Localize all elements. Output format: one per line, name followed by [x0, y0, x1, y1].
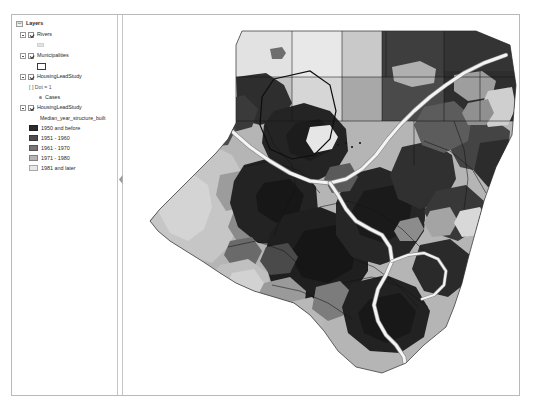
layer-visibility-checkbox[interactable]: [28, 105, 34, 111]
toc-layer-housingleadstudy-points[interactable]: HousingLeadStudy: [16, 71, 117, 82]
class-swatch-1: [29, 125, 38, 131]
layer-visibility-checkbox[interactable]: [28, 53, 34, 59]
choropleth-map: [124, 15, 519, 395]
class-swatch-3: [29, 145, 38, 151]
toc-layer-label: HousingLeadStudy: [37, 102, 82, 113]
toc-symbol-rivers: [16, 40, 117, 50]
map-canvas[interactable]: [124, 15, 519, 395]
toc-layer-label: Municipalities: [37, 50, 69, 61]
class-label: 1961 - 1970: [41, 143, 70, 153]
expander-icon[interactable]: [20, 74, 26, 80]
toc-layer-housingleadstudy-choropleth[interactable]: HousingLeadStudy: [16, 102, 117, 113]
toc-class-row[interactable]: 1961 - 1970: [16, 143, 117, 153]
expander-icon[interactable]: [20, 53, 26, 59]
class-label: 1950 and before: [41, 123, 80, 133]
toc-classification-field: Median_year_structure_built: [16, 113, 117, 123]
line-symbol-icon: [37, 43, 44, 47]
toc-class-row[interactable]: 1971 - 1980: [16, 153, 117, 163]
county-polygons: [124, 15, 519, 395]
expander-icon[interactable]: [20, 105, 26, 111]
data-frame-icon: [16, 21, 23, 27]
toc-symbol-cases: Cases: [16, 92, 117, 102]
toc-class-row[interactable]: 1951 - 1960: [16, 133, 117, 143]
layer-visibility-checkbox[interactable]: [28, 74, 34, 80]
panel-splitter[interactable]: [117, 15, 123, 395]
class-label: 1971 - 1980: [41, 153, 70, 163]
class-swatch-5: [29, 165, 38, 171]
toc-symbol-label: Cases: [45, 92, 60, 102]
point-symbol-icon: [39, 96, 42, 99]
document-frame: Layers Rivers Municipalities: [11, 14, 520, 396]
toc-definition-query: [ ] Dot = 1: [16, 82, 117, 92]
class-label: 1951 - 1960: [41, 133, 70, 143]
toc-class-row[interactable]: 1950 and before: [16, 123, 117, 133]
definition-query-label: [ ] Dot = 1: [29, 82, 52, 92]
class-label: 1981 and later: [41, 163, 75, 173]
class-swatch-2: [29, 135, 38, 141]
application-window: Layers Rivers Municipalities: [0, 0, 535, 412]
toc-root-label: Layers: [26, 18, 43, 29]
chevron-left-icon[interactable]: [119, 175, 123, 184]
expander-icon[interactable]: [20, 32, 26, 38]
toc-layer-rivers[interactable]: Rivers: [16, 29, 117, 40]
toc-symbol-municipalities: [16, 61, 117, 71]
toc-class-row[interactable]: 1981 and later: [16, 163, 117, 173]
toc-layer-label: HousingLeadStudy: [37, 71, 82, 82]
toc-layer-label: Rivers: [37, 29, 52, 40]
class-swatch-4: [29, 155, 38, 161]
toc-layer-municipalities[interactable]: Municipalities: [16, 50, 117, 61]
layer-visibility-checkbox[interactable]: [28, 32, 34, 38]
hollow-polygon-symbol-icon: [37, 63, 46, 70]
table-of-contents-panel[interactable]: Layers Rivers Municipalities: [12, 15, 117, 395]
toc-root-layers[interactable]: Layers: [16, 18, 117, 29]
